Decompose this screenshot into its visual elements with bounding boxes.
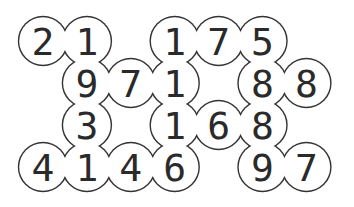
cell-digit: 9	[251, 146, 274, 190]
cell-digit: 4	[119, 146, 142, 190]
cell-digit: 8	[251, 62, 274, 106]
cell-digit: 5	[251, 20, 274, 64]
cell-digit: 7	[119, 62, 142, 106]
cell-digit: 7	[207, 20, 230, 64]
cell-digit: 8	[251, 104, 274, 148]
cell-digit: 1	[75, 146, 98, 190]
puzzle-board: 21175971883168414697	[0, 0, 354, 207]
cell-digit: 7	[295, 146, 318, 190]
cell-digit: 6	[163, 146, 186, 190]
cell-digit: 2	[32, 20, 55, 64]
cell-digit: 9	[75, 62, 98, 106]
cell-digit: 1	[163, 104, 186, 148]
cell-digit: 1	[75, 20, 98, 64]
cell-digit: 1	[163, 62, 186, 106]
cell-digit: 1	[163, 20, 186, 64]
cell-digit: 6	[207, 104, 230, 148]
cell-digit: 3	[75, 104, 98, 148]
cell-digit: 4	[32, 146, 55, 190]
cell-digit: 8	[295, 62, 318, 106]
